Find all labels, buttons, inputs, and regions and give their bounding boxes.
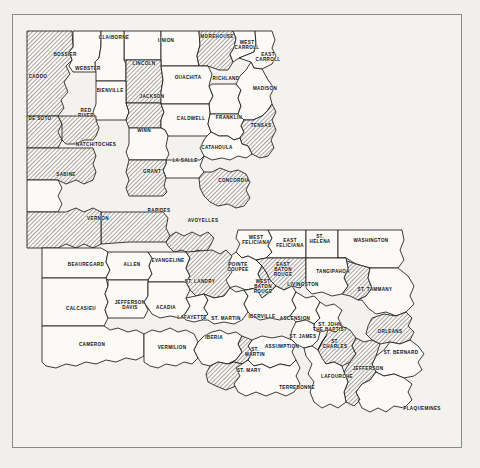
parish-shape[interactable] xyxy=(161,66,213,104)
parish-shape[interactable] xyxy=(105,280,148,318)
map-vector-layer xyxy=(0,0,480,468)
parish-shape[interactable] xyxy=(306,258,348,296)
parish-shape[interactable] xyxy=(27,180,62,212)
parish-shape[interactable] xyxy=(42,326,144,368)
parish-shape[interactable] xyxy=(27,208,101,248)
parish-shape[interactable] xyxy=(126,128,169,160)
parish-shape[interactable] xyxy=(161,104,211,136)
parish-shape[interactable] xyxy=(27,31,73,116)
parish-shape[interactable] xyxy=(186,250,232,298)
parish-shape[interactable] xyxy=(106,252,152,280)
parish-shape[interactable] xyxy=(42,278,108,326)
parish-shape-group xyxy=(27,31,424,412)
parish-shape[interactable] xyxy=(124,31,161,60)
louisiana-parish-map: BOSSIERCADDOCLAIBORNEUNIONMOREHOUSEWEST … xyxy=(0,0,480,468)
parish-shape[interactable] xyxy=(58,116,99,144)
parish-shape[interactable] xyxy=(306,230,338,258)
parish-shape[interactable] xyxy=(248,336,296,368)
parish-shape[interactable] xyxy=(163,156,204,178)
parish-shape[interactable] xyxy=(126,160,167,196)
parish-shape[interactable] xyxy=(144,282,190,318)
parish-shape[interactable] xyxy=(42,248,110,278)
parish-shape[interactable] xyxy=(366,312,414,344)
parish-shape[interactable] xyxy=(197,31,236,70)
parish-shape[interactable] xyxy=(199,168,250,208)
parish-shape[interactable] xyxy=(161,31,200,66)
parish-shape[interactable] xyxy=(101,212,170,244)
parish-shape[interactable] xyxy=(144,328,198,368)
parish-shape[interactable] xyxy=(27,116,62,148)
parish-shape[interactable] xyxy=(209,84,241,114)
parish-shape[interactable] xyxy=(27,148,96,184)
parish-shape[interactable] xyxy=(148,252,190,282)
parish-shape[interactable] xyxy=(93,81,129,120)
parish-shape[interactable] xyxy=(126,60,163,103)
parish-shape[interactable] xyxy=(126,103,164,128)
parish-shape[interactable] xyxy=(266,230,306,258)
parish-shape[interactable] xyxy=(236,230,272,260)
